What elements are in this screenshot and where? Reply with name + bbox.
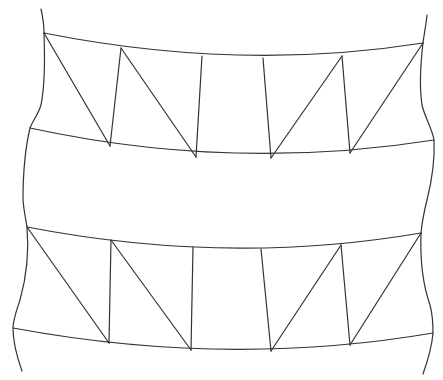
upper-band-strut-7 xyxy=(350,43,423,153)
upper-band-strut-1 xyxy=(110,48,121,146)
upper-band-top-edge xyxy=(44,33,423,55)
lower-band-bottom-edge xyxy=(13,328,433,349)
upper-band-struts xyxy=(44,33,423,158)
upper-band-strut-6 xyxy=(342,56,350,153)
upper-band-strut-5 xyxy=(271,56,342,158)
left-outline-curve xyxy=(13,9,45,371)
lower-band xyxy=(13,227,433,351)
lower-band-strut-2 xyxy=(111,240,191,350)
upper-band-bottom-edge xyxy=(30,128,434,153)
upper-band-strut-2 xyxy=(121,48,196,157)
lower-band-top-edge xyxy=(27,227,421,248)
upper-band xyxy=(30,33,434,158)
right-outline-curve xyxy=(420,15,434,374)
lower-band-strut-7 xyxy=(350,233,421,345)
upper-band-strut-3 xyxy=(196,56,202,157)
lower-band-strut-5 xyxy=(271,245,341,351)
lower-band-strut-4 xyxy=(261,249,271,351)
lower-band-strut-1 xyxy=(109,240,111,343)
lower-band-strut-6 xyxy=(341,245,350,345)
lower-band-strut-0 xyxy=(27,227,109,343)
lower-band-struts xyxy=(27,227,421,351)
upper-band-strut-4 xyxy=(263,58,271,158)
lower-band-strut-3 xyxy=(191,247,193,350)
drawing-svg xyxy=(0,0,443,380)
body-outline xyxy=(13,9,434,374)
truss-band-drawing xyxy=(0,0,443,380)
upper-band-strut-0 xyxy=(44,33,110,146)
